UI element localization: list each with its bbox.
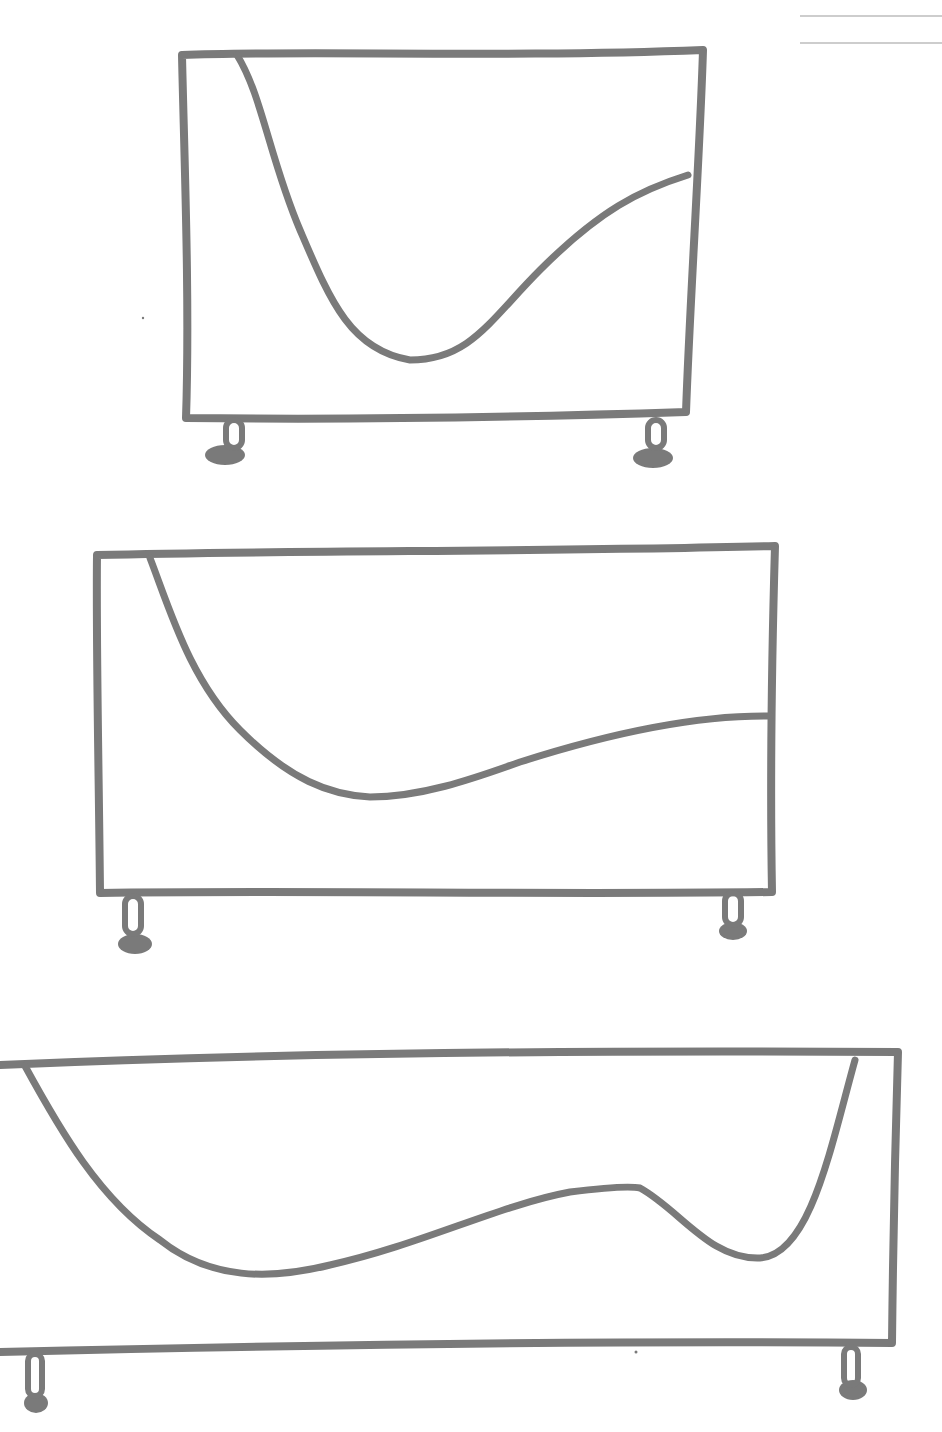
cabinet-foot — [118, 896, 152, 954]
cabinet-small — [182, 50, 703, 468]
header-rules — [800, 16, 942, 43]
cabinet-foot — [719, 893, 747, 940]
cabinet-foot — [24, 1354, 48, 1413]
paper-specks — [142, 317, 638, 1354]
cabinet-foot — [633, 420, 673, 468]
speck — [142, 317, 144, 319]
cabinet-outline — [97, 546, 775, 893]
cabinet-large — [0, 1051, 898, 1413]
speck — [635, 1351, 638, 1354]
cabinet-medium — [97, 546, 775, 954]
cabinet-sketches — [0, 50, 898, 1413]
cabinet-curve — [150, 558, 770, 797]
sketch-canvas — [0, 0, 942, 1432]
cabinet-foot — [205, 420, 245, 465]
cabinet-curve — [237, 55, 688, 360]
cabinet-curve — [25, 1060, 855, 1274]
cabinet-outline — [0, 1051, 898, 1352]
cabinet-foot — [839, 1347, 867, 1400]
